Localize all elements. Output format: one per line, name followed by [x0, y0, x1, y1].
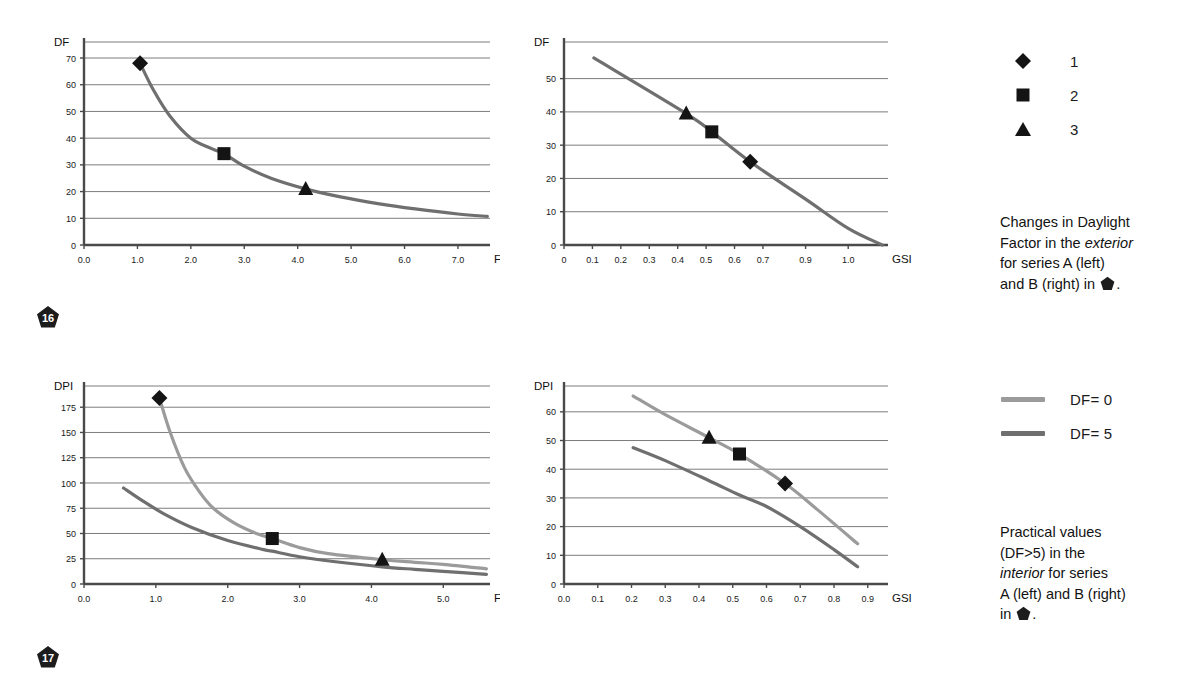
svg-text:0.2: 0.2	[615, 255, 628, 265]
caption-17-line5-post: .	[1032, 606, 1036, 622]
svg-text:0.5: 0.5	[726, 594, 739, 604]
svg-text:GSI: GSI	[892, 253, 912, 265]
svg-text:0: 0	[561, 255, 566, 265]
series-curve	[594, 58, 882, 245]
svg-text:50: 50	[546, 436, 556, 446]
caption-17-emphasis-interior: interior	[1000, 565, 1044, 581]
chart-c-svg: 02550751001251501750.01.02.03.04.05.0DPI…	[40, 372, 500, 632]
svg-text:0.9: 0.9	[861, 594, 874, 604]
chart-d-interior-dpi-gsi: 01020304050600.00.10.20.30.40.50.60.70.8…	[520, 372, 940, 632]
figure-badge-16: 16	[36, 305, 60, 329]
svg-text:60: 60	[546, 407, 556, 417]
svg-text:0.9: 0.9	[799, 255, 812, 265]
svg-text:5.0: 5.0	[345, 255, 358, 265]
caption-16-emphasis-exterior: exterior	[1085, 235, 1133, 251]
svg-text:40: 40	[546, 107, 556, 117]
legend-markers: 1 2 3	[1000, 44, 1079, 146]
svg-text:6.0: 6.0	[398, 255, 411, 265]
dark-line-swatch-icon	[1000, 431, 1046, 436]
svg-text:30: 30	[66, 160, 76, 170]
chart-a-svg: 0102030405060700.01.02.03.04.05.06.07.0D…	[40, 28, 500, 293]
svg-text:FSI: FSI	[494, 253, 500, 265]
svg-text:0.4: 0.4	[671, 255, 684, 265]
svg-text:7.0: 7.0	[452, 255, 465, 265]
svg-text:4.0: 4.0	[291, 255, 304, 265]
svg-text:3.0: 3.0	[238, 255, 251, 265]
chart-b-exterior-df-gsi: 0102030405000.10.20.30.40.50.60.70.91.0D…	[520, 28, 940, 293]
legend-lines: DF= 0 DF= 5	[1000, 382, 1112, 450]
svg-text:DF: DF	[534, 36, 549, 48]
svg-text:30: 30	[546, 494, 556, 504]
caption-17-line3-post: for series	[1044, 565, 1108, 581]
svg-text:10: 10	[546, 551, 556, 561]
triangle-marker	[679, 106, 694, 120]
svg-text:50: 50	[546, 74, 556, 84]
legend-item-3: 3	[1000, 112, 1079, 146]
legend-item-2-label: 2	[1070, 87, 1079, 104]
legend-item-1-label: 1	[1070, 53, 1079, 70]
square-marker-icon	[1000, 86, 1046, 104]
square-marker	[217, 147, 230, 160]
caption-16-line2-pre: Factor in the	[1000, 235, 1085, 251]
legend-item-df0-label: DF= 0	[1070, 391, 1112, 408]
svg-text:0: 0	[71, 580, 76, 590]
svg-text:50: 50	[66, 529, 76, 539]
legend-item-3-label: 3	[1070, 121, 1079, 138]
figure-badge-17-label: 17	[36, 645, 60, 669]
svg-text:100: 100	[61, 479, 76, 489]
caption-16-line3: for series A (left)	[1000, 255, 1105, 271]
caption-17-line4: A (left) and B (right)	[1000, 586, 1126, 602]
svg-text:0: 0	[71, 241, 76, 251]
svg-text:0.3: 0.3	[659, 594, 672, 604]
chart-d-svg: 01020304050600.00.10.20.30.40.50.60.70.8…	[520, 372, 940, 632]
svg-text:75: 75	[66, 504, 76, 514]
figure-badge-17: 17	[36, 645, 60, 669]
series-curve	[633, 396, 857, 544]
svg-text:10: 10	[546, 207, 556, 217]
svg-text:40: 40	[546, 465, 556, 475]
svg-text:0.3: 0.3	[643, 255, 656, 265]
svg-text:0.4: 0.4	[693, 594, 706, 604]
series-curve	[159, 398, 486, 569]
legend-item-df0: DF= 0	[1000, 382, 1112, 416]
chart-b-svg: 0102030405000.10.20.30.40.50.60.70.91.0D…	[520, 28, 940, 293]
svg-text:0.7: 0.7	[794, 594, 807, 604]
figure-badge-16-label: 16	[36, 305, 60, 329]
svg-text:0: 0	[551, 580, 556, 590]
svg-text:1.0: 1.0	[150, 594, 163, 604]
svg-text:0.2: 0.2	[625, 594, 638, 604]
square-marker	[733, 448, 746, 461]
svg-text:0.5: 0.5	[700, 255, 713, 265]
svg-text:FSI: FSI	[494, 592, 500, 604]
svg-text:50: 50	[66, 107, 76, 117]
svg-text:125: 125	[61, 453, 76, 463]
chart-c-interior-dpi-fsi: 02550751001251501750.01.02.03.04.05.0DPI…	[40, 372, 500, 632]
series-curve	[140, 63, 487, 216]
svg-text:175: 175	[61, 403, 76, 413]
caption-17-line5-pre: in	[1000, 606, 1015, 622]
svg-text:60: 60	[66, 80, 76, 90]
chart-a-exterior-df-fsi: 0102030405060700.01.02.03.04.05.06.07.0D…	[40, 28, 500, 293]
svg-text:4.0: 4.0	[365, 594, 378, 604]
legend-item-1: 1	[1000, 44, 1079, 78]
square-marker	[705, 125, 718, 138]
svg-text:70: 70	[66, 54, 76, 64]
caption-16-line4-post: .	[1116, 276, 1120, 292]
svg-text:30: 30	[546, 141, 556, 151]
svg-text:20: 20	[546, 174, 556, 184]
svg-text:20: 20	[66, 187, 76, 197]
svg-text:DPI: DPI	[534, 380, 553, 392]
series-curve	[633, 448, 857, 567]
series-curve	[124, 488, 487, 574]
svg-text:0.1: 0.1	[591, 594, 604, 604]
svg-text:GSI: GSI	[892, 592, 912, 604]
svg-text:0.1: 0.1	[586, 255, 599, 265]
svg-text:40: 40	[66, 134, 76, 144]
caption-17-line2: (DF>5) in the	[1000, 545, 1085, 561]
legend-item-2: 2	[1000, 78, 1079, 112]
svg-text:2.0: 2.0	[185, 255, 198, 265]
svg-text:0: 0	[551, 241, 556, 251]
svg-text:25: 25	[66, 554, 76, 564]
svg-text:150: 150	[61, 428, 76, 438]
svg-text:0.0: 0.0	[558, 594, 571, 604]
